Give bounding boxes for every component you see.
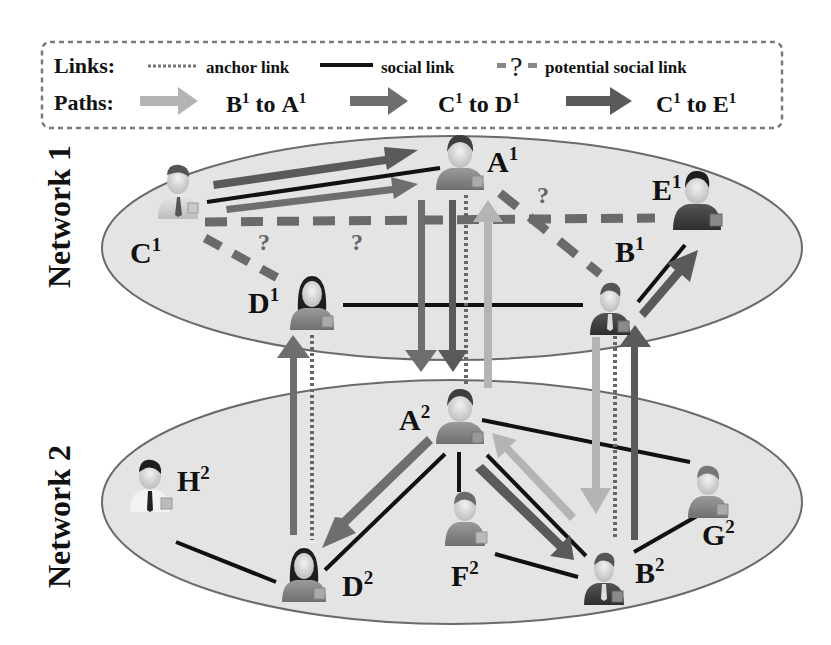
svg-text:B1toA1: B1toA1 — [226, 90, 306, 117]
svg-text:C1toD1: C1toD1 — [438, 90, 520, 117]
legend-links-label: Links: — [54, 53, 115, 78]
potential-mark-c1-d1: ? — [258, 229, 270, 255]
legend-social-link-label: social link — [381, 58, 455, 77]
legend: Links: anchor link social link ? potenti… — [42, 42, 782, 128]
legend-potential-mark: ? — [510, 51, 522, 82]
network-1-label: Network 1 — [41, 145, 77, 288]
legend-anchor-link-label: anchor link — [206, 58, 290, 77]
legend-paths-label: Paths: — [54, 90, 114, 115]
legend-potential-dash-left — [497, 63, 506, 68]
network-alignment-diagram: Links: anchor link social link ? potenti… — [0, 0, 831, 645]
legend-potential-dash-right — [528, 63, 537, 68]
network-2-label: Network 2 — [41, 445, 77, 588]
legend-potential-social-link-label: potential social link — [545, 58, 687, 77]
potential-mark-c1-e1: ? — [351, 229, 363, 255]
potential-mark-a1-b1: ? — [537, 182, 549, 208]
svg-text:C1toE1: C1toE1 — [656, 90, 736, 117]
